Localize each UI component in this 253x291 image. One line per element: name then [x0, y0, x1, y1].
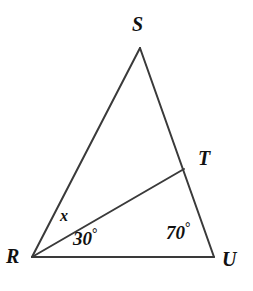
- angle-label-x: x: [60, 208, 68, 224]
- angle-value-70: 70: [166, 222, 185, 243]
- triangle-svg: [0, 0, 253, 291]
- geometry-figure: S T R U x 30° 70°: [0, 0, 253, 291]
- angle-label-30: 30°: [73, 227, 97, 248]
- vertex-label-t: T: [198, 148, 210, 168]
- angle-value-30: 30: [73, 228, 92, 249]
- vertex-label-r: R: [6, 246, 19, 266]
- vertex-label-s: S: [132, 14, 143, 34]
- degree-symbol-70: °: [185, 220, 190, 235]
- angle-label-70: 70°: [166, 221, 190, 242]
- vertex-label-u: U: [222, 249, 236, 269]
- degree-symbol-30: °: [92, 226, 97, 241]
